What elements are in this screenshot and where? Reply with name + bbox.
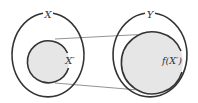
subset-x-prime-label: X′ bbox=[64, 55, 75, 66]
set-y-label: Y bbox=[147, 9, 155, 20]
set-x-label: X bbox=[43, 9, 52, 20]
set-mapping-diagram: X X′ Y f(X′) bbox=[0, 0, 198, 103]
image-set-label: f(X′) bbox=[161, 55, 182, 66]
